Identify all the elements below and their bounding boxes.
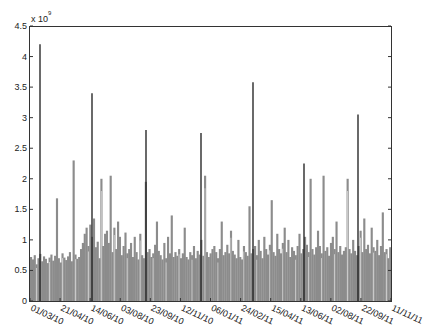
bar — [306, 245, 308, 301]
bar — [260, 251, 262, 301]
bar — [361, 252, 363, 301]
bar — [354, 251, 356, 301]
bar-gap — [75, 259, 76, 301]
bar-gap — [88, 252, 89, 302]
bar — [293, 251, 295, 301]
bar — [237, 240, 239, 301]
bar — [221, 222, 223, 301]
bar — [297, 246, 299, 301]
bar — [380, 246, 382, 301]
bar — [97, 242, 99, 301]
bar — [284, 228, 286, 301]
bar — [280, 253, 282, 301]
bar — [186, 257, 188, 301]
bar-gap — [127, 258, 128, 301]
bar — [376, 240, 378, 301]
bar — [202, 256, 204, 301]
bar — [210, 253, 212, 301]
bar — [123, 246, 125, 301]
bar — [198, 255, 200, 301]
bar — [378, 255, 380, 301]
bar — [93, 219, 95, 302]
bar — [323, 176, 325, 301]
bar — [167, 237, 169, 301]
bar — [117, 222, 119, 301]
bar — [317, 231, 319, 301]
bar — [150, 257, 152, 301]
bar-gap — [179, 254, 180, 301]
bar — [171, 215, 173, 301]
bar — [30, 257, 32, 301]
bar — [213, 246, 215, 301]
bar — [65, 260, 67, 301]
y-tick-label: 0 — [22, 296, 27, 306]
bar — [324, 251, 326, 301]
bar — [108, 243, 110, 301]
bar — [326, 247, 328, 301]
bar — [315, 247, 317, 301]
bar — [350, 253, 352, 301]
bar — [173, 257, 175, 301]
bar — [148, 249, 150, 301]
bar-gap — [36, 268, 37, 301]
bar — [52, 261, 54, 301]
bar — [258, 240, 260, 301]
bar — [328, 256, 330, 301]
y-tick-label: 4.5 — [14, 21, 27, 31]
bar — [274, 256, 276, 301]
x-tick-label: 23/09/10 — [149, 303, 185, 327]
bar — [86, 228, 88, 301]
bar — [189, 252, 191, 301]
bar — [265, 249, 267, 301]
bar-gap — [295, 260, 296, 301]
bar — [156, 222, 158, 301]
bar — [154, 245, 156, 301]
bar — [50, 255, 52, 301]
bar — [89, 225, 91, 301]
bar — [241, 259, 243, 301]
bar — [348, 249, 350, 301]
bar — [187, 259, 189, 301]
bar — [208, 257, 210, 301]
bar — [110, 176, 112, 301]
bar — [45, 259, 47, 301]
bar — [141, 255, 143, 301]
bar — [235, 258, 237, 301]
bar — [71, 261, 73, 301]
bar — [313, 255, 315, 301]
bar — [263, 237, 265, 301]
bar — [319, 246, 321, 301]
bar-gap — [166, 263, 167, 302]
bar — [228, 253, 230, 301]
bar-gap — [334, 254, 335, 301]
bar-gap — [243, 252, 244, 302]
bar-gap — [218, 263, 219, 302]
bar — [261, 258, 263, 301]
bar — [158, 251, 160, 301]
bar-gap — [373, 253, 374, 301]
bar — [234, 255, 236, 301]
bar — [43, 256, 45, 301]
bar — [382, 212, 384, 301]
bar — [369, 253, 371, 301]
bar — [287, 240, 289, 301]
bar — [163, 243, 165, 301]
bar — [137, 259, 139, 301]
bar — [176, 256, 178, 301]
bar — [298, 234, 300, 301]
bar-chart: 00.511.522.533.544.5 01/03/1021/04/1014/… — [0, 0, 429, 331]
bar — [143, 258, 145, 301]
bar — [285, 252, 287, 301]
bar — [332, 237, 334, 301]
y-multiplier-label: x 10 — [31, 14, 48, 24]
bar — [63, 258, 65, 301]
bar — [47, 263, 49, 301]
bar-gap — [386, 254, 387, 301]
bar — [232, 251, 234, 301]
bar — [95, 247, 97, 301]
bar — [76, 259, 78, 301]
bar — [104, 234, 106, 301]
bar — [367, 245, 369, 301]
bar — [58, 258, 60, 301]
bar — [121, 255, 123, 301]
